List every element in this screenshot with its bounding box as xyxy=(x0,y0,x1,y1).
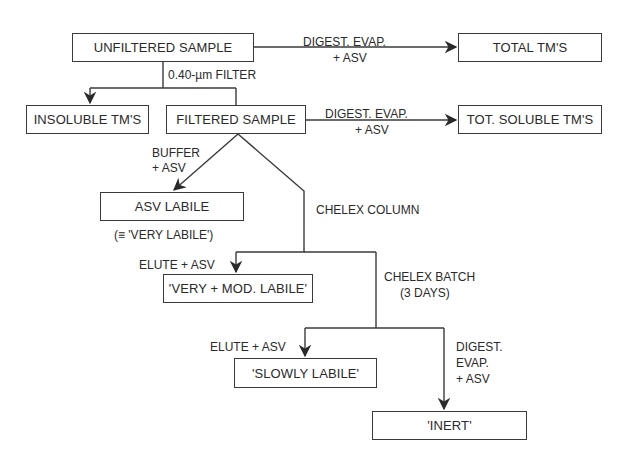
edge-label-digest-2b: + ASV xyxy=(355,123,389,137)
edge-label-buffer-a: BUFFER xyxy=(152,146,200,160)
edge-label-chelex-batch-a: CHELEX BATCH xyxy=(384,270,475,284)
node-slowly-labile: 'SLOWLY LABILE' xyxy=(234,358,377,388)
node-unfiltered-sample: UNFILTERED SAMPLE xyxy=(72,33,254,62)
edge-label-filter: 0.40-µm FILTER xyxy=(168,68,256,82)
edge-label-elute-2: ELUTE + ASV xyxy=(210,340,286,354)
node-asv-labile: ASV LABILE xyxy=(100,192,244,221)
edge-label-chelex-batch-b: (3 DAYS) xyxy=(400,286,450,300)
node-total-tms: TOTAL TM'S xyxy=(458,33,602,62)
node-insoluble-tms: INSOLUBLE TM'S xyxy=(26,105,149,134)
node-inert: 'INERT' xyxy=(372,411,527,440)
node-filtered-sample: FILTERED SAMPLE xyxy=(166,105,306,134)
edge-label-buffer-b: + ASV xyxy=(152,161,186,175)
asv-labile-note: (≡ 'VERY LABILE') xyxy=(114,228,213,242)
edge-label-digest-3c: + ASV xyxy=(456,372,490,386)
node-tot-soluble-tms: TOT. SOLUBLE TM'S xyxy=(458,105,602,134)
edge-label-elute-1: ELUTE + ASV xyxy=(139,258,215,272)
edge-label-digest-1b: + ASV xyxy=(333,51,367,65)
edge-label-digest-2a: DIGEST. EVAP. xyxy=(325,107,408,121)
edge-label-digest-1a: DIGEST. EVAP. xyxy=(303,35,386,49)
edge-label-digest-3a: DIGEST. xyxy=(456,340,503,354)
node-very-mod-labile: 'VERY + MOD. LABILE' xyxy=(163,274,313,303)
edge-label-chelex-column: CHELEX COLUMN xyxy=(316,203,419,217)
edge-label-digest-3b: EVAP. xyxy=(456,356,489,370)
